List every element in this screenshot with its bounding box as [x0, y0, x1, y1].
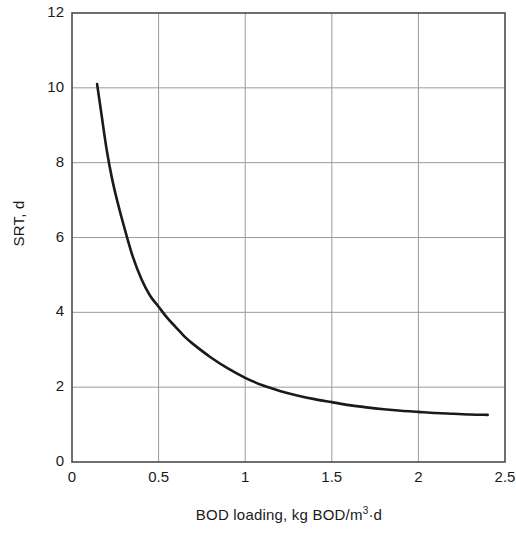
grid-lines [72, 13, 505, 462]
chart-figure: 024681012 00.511.522.5 SRT, d BOD loadin… [0, 0, 516, 534]
y-axis-tick-label: 4 [18, 302, 64, 319]
x-axis-tick-label: 1.5 [302, 468, 362, 485]
x-axis-tick-label: 2.5 [475, 468, 516, 485]
y-axis-title: SRT, d [10, 184, 27, 264]
y-axis-tick-label: 12 [18, 3, 64, 20]
chart-plot-svg [0, 0, 516, 534]
y-axis-tick-label: 0 [18, 452, 64, 469]
x-axis-title-base: BOD loading, kg BOD/m [196, 506, 363, 523]
y-axis-tick-label: 2 [18, 377, 64, 394]
x-axis-tick-label: 1 [215, 468, 275, 485]
y-axis-tick-label: 10 [18, 78, 64, 95]
x-axis-tick-label: 0.5 [129, 468, 189, 485]
x-axis-tick-label: 0 [42, 468, 102, 485]
y-axis-tick-label: 8 [18, 153, 64, 170]
x-axis-title: BOD loading, kg BOD/m3·d [72, 506, 506, 523]
x-axis-title-tail: ·d [368, 506, 382, 523]
data-series-line [97, 84, 488, 415]
series-curve [97, 84, 488, 415]
x-axis-tick-label: 2 [388, 468, 448, 485]
